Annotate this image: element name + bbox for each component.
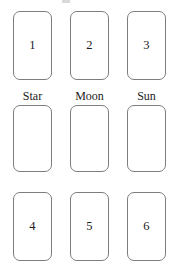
bottom-row-column-2: 5 <box>70 192 109 261</box>
card-bottom-5[interactable]: 5 <box>70 192 109 261</box>
clipped-top-artifact <box>62 0 70 3</box>
card-top-3[interactable]: 3 <box>127 11 166 80</box>
card-slot-sun[interactable] <box>127 105 166 172</box>
slot-label-sun: Sun <box>127 90 166 102</box>
card-slot-moon[interactable] <box>70 105 109 172</box>
top-row-column-2: 2 <box>70 11 109 80</box>
card-bottom-4-label: 4 <box>29 220 35 233</box>
slot-column-moon: Moon <box>70 90 109 172</box>
slot-label-star: Star <box>13 90 52 102</box>
card-slot-grid: 1 2 3 Star Moon Sun <box>0 0 183 275</box>
card-bottom-6[interactable]: 6 <box>127 192 166 261</box>
card-top-1-label: 1 <box>29 39 35 52</box>
top-row-column-1: 1 <box>13 11 52 80</box>
slot-column-sun: Sun <box>127 90 166 172</box>
card-top-2-label: 2 <box>86 39 92 52</box>
card-top-2[interactable]: 2 <box>70 11 109 80</box>
card-top-1[interactable]: 1 <box>13 11 52 80</box>
card-top-3-label: 3 <box>143 39 149 52</box>
card-slot-star[interactable] <box>13 105 52 172</box>
card-bottom-5-label: 5 <box>86 220 92 233</box>
card-bottom-4[interactable]: 4 <box>13 192 52 261</box>
bottom-row-column-3: 6 <box>127 192 166 261</box>
card-bottom-6-label: 6 <box>143 220 149 233</box>
top-row-column-3: 3 <box>127 11 166 80</box>
slot-column-star: Star <box>13 90 52 172</box>
bottom-row-column-1: 4 <box>13 192 52 261</box>
slot-label-moon: Moon <box>70 90 109 102</box>
